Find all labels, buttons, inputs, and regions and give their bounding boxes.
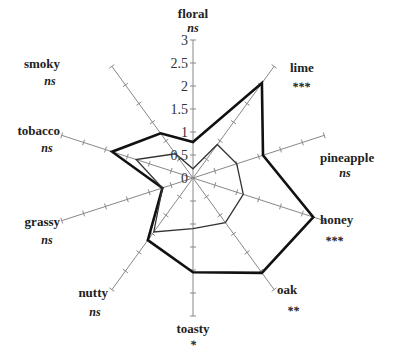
significance-floral: ns [187,21,199,35]
axis-label-lime: lime [290,60,314,75]
axis-label-smoky: smoky [24,56,61,71]
axis-label-pineapple: pineapple [320,150,374,165]
axis-label-toasty: toasty [176,321,210,336]
r-tick-label: 2.5 [171,56,189,71]
axis-label-floral: floral [178,6,209,21]
r-tick-label: 3 [181,33,188,48]
significance-nutty: ns [89,305,101,319]
r-tick-label: 1.5 [171,102,189,117]
series-bold-polygon [112,83,313,273]
significance-oak: ** [287,304,300,318]
significance-lime: *** [292,80,311,94]
axis-label-nutty: nutty [78,285,108,300]
axis-label-honey: honey [320,212,354,227]
significance-smoky: ns [44,74,56,88]
r-tick-label: 0.5 [171,148,189,163]
significance-grassy: ns [41,233,53,247]
r-tick-label: 1 [181,125,188,140]
significance-honey: *** [325,234,344,248]
r-tick-label: 0 [181,171,188,186]
axis-label-grassy: grassy [25,214,61,229]
significance-tobacco: ns [41,141,53,155]
radar-axes [61,40,325,316]
axis-label-tobacco: tobacco [17,123,60,138]
r-tick-label: 2 [181,79,188,94]
significance-pineapple: ns [339,166,351,180]
radar-series [112,83,313,273]
series-thin-polygon [136,145,243,233]
radar-chart: 00.511.522.53 floralnslime***pineapplens… [0,0,393,358]
axis-label-oak: oak [277,282,298,297]
significance-toasty: * [190,338,197,352]
